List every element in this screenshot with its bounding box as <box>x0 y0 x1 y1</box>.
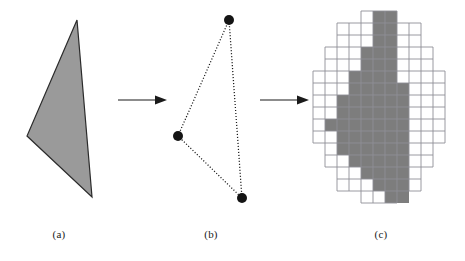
raster-pixel <box>349 155 361 167</box>
raster-pixel <box>385 71 397 83</box>
arrow-b-to-c <box>259 88 311 112</box>
raster-pixel <box>373 35 385 47</box>
raster-pixel <box>349 107 361 119</box>
raster-pixel <box>385 131 397 143</box>
raster-pixel <box>361 95 373 107</box>
vertex-dot-left <box>173 131 183 141</box>
raster-pixel <box>373 11 385 23</box>
raster-pixel <box>361 71 373 83</box>
raster-pixel <box>361 47 373 59</box>
raster-pixel <box>385 11 397 23</box>
caption-a: (a) <box>44 228 74 240</box>
raster-pixel <box>373 143 385 155</box>
panel-b-wireframe-triangle <box>155 0 305 225</box>
raster-pixel <box>373 179 385 191</box>
panel-c-svg <box>305 0 465 225</box>
raster-pixel <box>385 107 397 119</box>
raster-pixel <box>385 143 397 155</box>
raster-pixel <box>373 167 385 179</box>
raster-pixel <box>337 107 349 119</box>
raster-pixel <box>337 95 349 107</box>
raster-pixel <box>373 155 385 167</box>
raster-pixel <box>361 143 373 155</box>
raster-pixel <box>349 71 361 83</box>
raster-pixel <box>385 35 397 47</box>
raster-pixel <box>361 155 373 167</box>
raster-pixel <box>385 179 397 191</box>
raster-pixel <box>361 59 373 71</box>
raster-pixel <box>397 179 409 191</box>
raster-pixel <box>337 131 349 143</box>
raster-pixel <box>361 119 373 131</box>
raster-pixel <box>361 167 373 179</box>
raster-pixel <box>385 59 397 71</box>
filled-triangle-shape <box>27 20 92 197</box>
raster-pixel <box>349 131 361 143</box>
raster-pixel <box>373 119 385 131</box>
vertex-dot-bottom <box>237 193 247 203</box>
raster-pixel <box>373 95 385 107</box>
raster-pixel <box>349 119 361 131</box>
caption-c: (c) <box>366 228 396 240</box>
caption-b: (b) <box>196 228 226 240</box>
raster-pixel <box>397 155 409 167</box>
raster-pixel <box>385 191 397 203</box>
raster-pixel <box>337 119 349 131</box>
raster-pixel <box>385 47 397 59</box>
raster-pixel <box>373 71 385 83</box>
raster-pixel <box>349 143 361 155</box>
raster-pixel <box>325 119 337 131</box>
raster-pixel <box>349 83 361 95</box>
raster-pixel <box>385 83 397 95</box>
raster-pixel <box>397 143 409 155</box>
arrow-b-to-c-icon <box>259 88 311 112</box>
raster-pixel <box>385 95 397 107</box>
panel-a-filled-triangle <box>0 0 155 225</box>
raster-pixel <box>373 83 385 95</box>
vertex-dot-apex-top <box>224 15 234 25</box>
raster-pixel <box>385 23 397 35</box>
raster-pixel <box>397 119 409 131</box>
panel-c-rasterized-grid <box>305 0 465 225</box>
raster-pixel <box>373 59 385 71</box>
raster-pixel <box>397 83 409 95</box>
raster-pixel <box>397 131 409 143</box>
raster-pixel <box>385 167 397 179</box>
raster-pixel <box>373 47 385 59</box>
figure-root: (a) (b) (c) <box>0 0 465 261</box>
raster-pixel <box>349 95 361 107</box>
raster-pixel <box>397 95 409 107</box>
raster-pixel <box>373 131 385 143</box>
raster-pixel <box>397 167 409 179</box>
raster-pixel <box>337 143 349 155</box>
panel-a-svg <box>0 0 155 225</box>
raster-pixel <box>373 107 385 119</box>
wireframe-triangle-outline <box>178 20 242 198</box>
raster-pixel <box>397 191 409 203</box>
raster-pixel <box>361 131 373 143</box>
raster-pixel <box>361 107 373 119</box>
raster-pixel <box>361 83 373 95</box>
raster-pixel <box>397 107 409 119</box>
raster-pixel <box>385 119 397 131</box>
panel-b-svg <box>155 0 305 225</box>
raster-pixel <box>373 23 385 35</box>
raster-pixel <box>385 155 397 167</box>
